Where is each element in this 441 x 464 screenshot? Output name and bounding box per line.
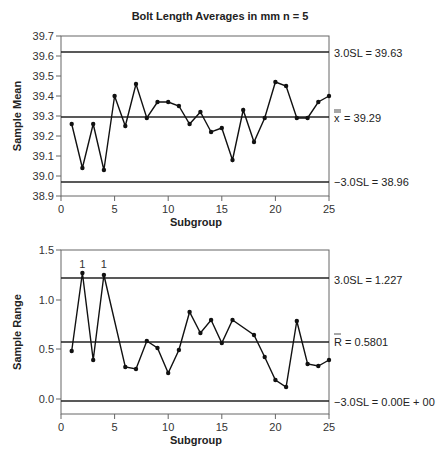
x-tick-label: 25: [323, 421, 335, 433]
range-lcl-label: −3.0SL = 0.00E + 00: [334, 396, 435, 408]
x-tick-label: 20: [269, 421, 281, 433]
xbar-ucl-label: 3.0SL = 39.63: [334, 47, 402, 59]
x-tick-label: 5: [112, 421, 118, 433]
x-tick-label: 10: [162, 203, 174, 215]
range-series-points: [70, 271, 332, 389]
range-y-tick-labels: 1.5 1.0 0.5 0.0: [39, 244, 54, 405]
out-of-control-flag: 1: [101, 258, 107, 270]
xbar-y-tick-labels: 39.7 39.6 39.5 39.4 39.3 39.2 39.1 39.0 …: [33, 30, 54, 202]
xbar-series-points: [70, 80, 332, 172]
chart-title: Bolt Length Averages in mm n = 5: [132, 10, 309, 22]
x-tick-label: 15: [216, 421, 228, 433]
range-center-value: = 0.5801: [342, 336, 388, 348]
y-tick-label: 1.0: [39, 294, 54, 306]
xbar-series-line: [72, 82, 329, 170]
x-tick-label: 25: [323, 203, 335, 215]
out-of-control-flag: 1: [79, 258, 85, 270]
range-x-axis: [61, 414, 329, 419]
y-tick-label: 39.5: [33, 70, 54, 82]
control-charts: Bolt Length Averages in mm n = 5 39.7 39…: [0, 0, 441, 464]
xbar-x-axis: [61, 196, 329, 201]
y-tick-label: 0.5: [39, 343, 54, 355]
xbar-lcl-label: −3.0SL = 38.96: [334, 176, 409, 188]
xbar-center-value: = 39.29: [341, 112, 381, 124]
range-center-symbol: R: [334, 336, 342, 348]
y-tick-label: 39.2: [33, 130, 54, 142]
xbar-x-tick-labels: 0 5 10 15 20 25: [58, 203, 335, 215]
y-tick-label: 39.3: [33, 110, 54, 122]
xbar-y-axis-label: Sample Mean: [11, 81, 23, 152]
range-x-axis-label: Subgroup: [170, 434, 222, 446]
y-tick-label: 1.5: [39, 244, 54, 256]
range-plot-frame: [61, 250, 329, 414]
y-tick-label: 39.1: [33, 150, 54, 162]
range-center-label: R = 0.5801: [334, 334, 388, 348]
x-tick-label: 20: [269, 203, 281, 215]
y-tick-label: 39.4: [33, 90, 54, 102]
y-tick-label: 39.6: [33, 50, 54, 62]
y-tick-label: 38.9: [33, 190, 54, 202]
xbar-x-axis-label: Subgroup: [170, 216, 222, 228]
y-tick-label: 0.0: [39, 393, 54, 405]
x-tick-label: 0: [58, 421, 64, 433]
range-series-line: [72, 273, 329, 387]
x-tick-label: 15: [216, 203, 228, 215]
range-x-tick-labels: 0 5 10 15 20 25: [58, 421, 335, 433]
range-y-axis: [56, 250, 61, 399]
xbar-center-label: x = 39.29: [334, 110, 381, 124]
xbar-plot-frame: [61, 36, 329, 196]
range-chart: 1.5 1.0 0.5 0.0 Sample Range 0 5 10 15 2…: [11, 244, 435, 446]
xbar-chart: Bolt Length Averages in mm n = 5 39.7 39…: [11, 10, 409, 228]
xbar-center-symbol: x: [334, 112, 340, 124]
xbar-y-axis: [56, 36, 61, 196]
x-tick-label: 10: [162, 421, 174, 433]
range-y-axis-label: Sample Range: [11, 294, 23, 370]
y-tick-label: 39.0: [33, 170, 54, 182]
range-ucl-label: 3.0SL = 1.227: [334, 274, 402, 286]
x-tick-label: 0: [58, 203, 64, 215]
y-tick-label: 39.7: [33, 30, 54, 42]
x-tick-label: 5: [112, 203, 118, 215]
